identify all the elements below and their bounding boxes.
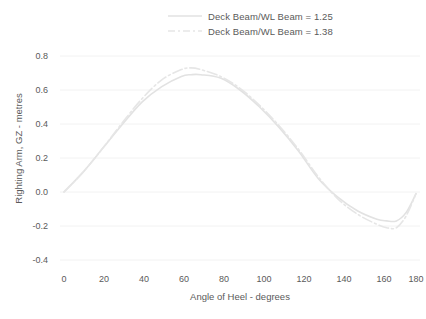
chart-container: Deck Beam/WL Beam = 1.25 Deck Beam/WL Be…	[0, 0, 426, 319]
data-series-line	[64, 68, 416, 229]
grid-lines	[60, 56, 420, 260]
plot-area	[0, 0, 426, 319]
data-series-group	[64, 68, 416, 229]
data-series-line	[64, 74, 416, 221]
